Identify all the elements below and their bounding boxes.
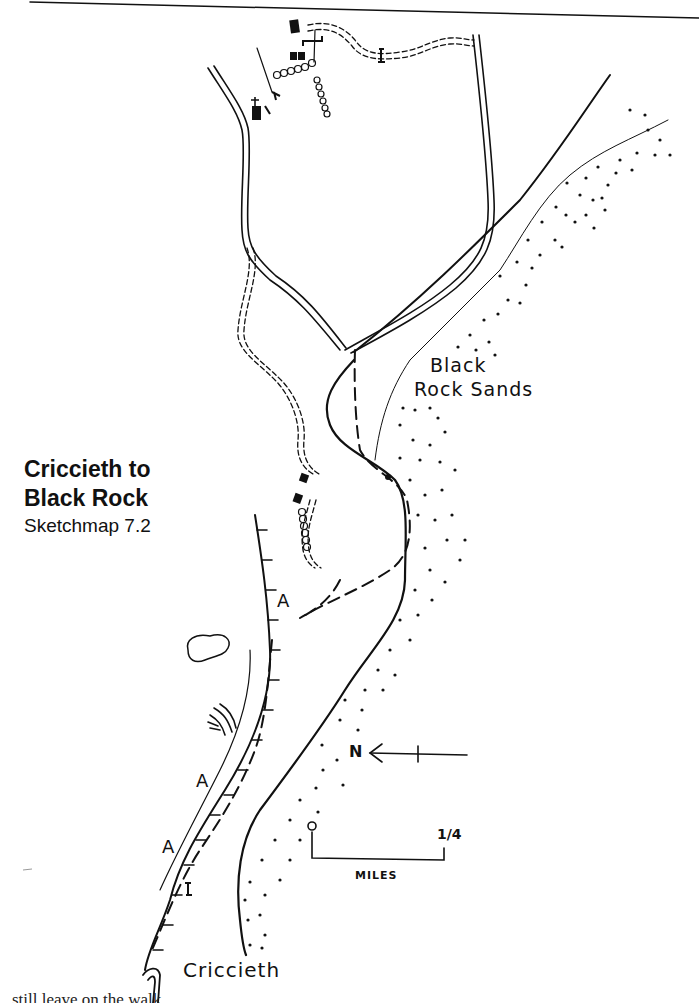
cliff-icon xyxy=(208,704,236,735)
track-top xyxy=(308,23,474,58)
scale-end-label: 1/4 xyxy=(437,826,462,842)
label-access-point: A xyxy=(277,590,289,611)
body-text-fragment: still leave on the walk... xyxy=(12,990,174,1003)
church-icon xyxy=(251,97,259,106)
footpath xyxy=(152,350,410,950)
label-access-point: A xyxy=(196,770,208,791)
label-black-rock-sands-1: Black xyxy=(430,354,486,376)
scale-bar xyxy=(308,822,444,860)
map-title-line2: Black Rock xyxy=(24,484,151,513)
pond-icon xyxy=(187,635,229,662)
north-arrow-icon xyxy=(370,744,467,762)
north-label: N xyxy=(349,742,362,761)
stile-icon xyxy=(185,36,385,895)
label-criccieth: Criccieth xyxy=(183,958,280,982)
label-black-rock-sands-2: Rock Sands xyxy=(414,378,533,400)
stream xyxy=(238,360,406,955)
track-west xyxy=(238,248,321,568)
scale-unit-label: MILES xyxy=(355,869,398,882)
page-rule xyxy=(30,2,699,18)
label-access-point: A xyxy=(162,836,174,857)
railway xyxy=(145,515,280,970)
map-title-block: Criccieth to Black Rock Sketchmap 7.2 xyxy=(24,455,151,539)
sand-dots-icon xyxy=(243,108,671,949)
shoreline xyxy=(375,120,668,460)
map-title-line1: Criccieth to xyxy=(24,455,151,484)
map-subtitle: Sketchmap 7.2 xyxy=(24,513,151,539)
road-upper-loop xyxy=(208,35,494,353)
margin-mark xyxy=(23,869,32,870)
fence-line xyxy=(257,48,272,92)
